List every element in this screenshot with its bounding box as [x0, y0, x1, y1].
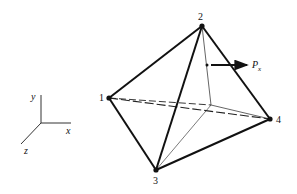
node-1	[106, 95, 111, 100]
edge-1-inner-dashed	[109, 98, 211, 105]
node-2-label: 2	[198, 11, 203, 22]
edge-1-2	[109, 26, 202, 98]
edge-3-4	[156, 119, 270, 170]
node-4	[267, 116, 272, 121]
node-2	[199, 23, 204, 28]
z-axis-label: z	[23, 145, 28, 156]
edge-1-3	[109, 98, 156, 170]
visible-edges	[109, 26, 270, 170]
hidden-edges	[109, 26, 270, 170]
edge-1-4-dashed	[109, 98, 270, 119]
coordinate-axes: y x z	[21, 91, 71, 156]
load-point	[206, 64, 209, 67]
tetrahedron-diagram: y x z Px 1 2 3 4	[0, 0, 297, 194]
edge-3-inner	[156, 105, 211, 170]
node-1-label: 1	[99, 92, 104, 103]
node-3-label: 3	[153, 175, 158, 186]
y-axis-label: y	[30, 91, 36, 102]
x-axis-label: x	[65, 125, 71, 136]
load-label: Px	[251, 59, 262, 73]
load-label-main: P	[251, 59, 258, 70]
node-3	[153, 167, 158, 172]
load-label-subscript: x	[257, 65, 262, 73]
z-axis	[21, 123, 41, 144]
edge-2-3	[156, 26, 202, 170]
node-4-label: 4	[276, 114, 281, 125]
nodes: 1 2 3 4	[99, 11, 281, 186]
